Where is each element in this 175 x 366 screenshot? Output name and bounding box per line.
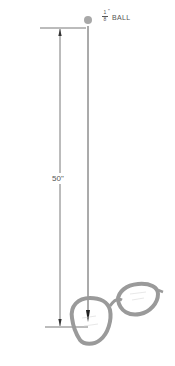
ball-size-unit: " [108,8,110,14]
drop-arrow-down-icon [86,310,90,322]
drop-height-label: 50" [52,173,64,184]
ball-size-denominator: 8 [104,16,107,22]
dimension-arrow-up-icon [58,29,61,36]
ball-label: BALL [112,14,130,21]
eyeglasses-icon [72,284,163,344]
dimension-arrow-down-icon [58,319,61,326]
diagram-canvas [0,0,175,366]
ball-icon [84,16,92,24]
ball-size-numerator: 1 [104,9,107,15]
drop-ball-test-diagram: 18 " BALL 50" [0,0,175,366]
